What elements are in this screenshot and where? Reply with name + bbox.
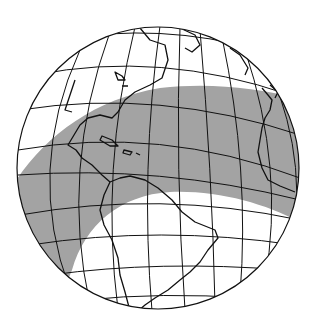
globe-map (0, 0, 316, 327)
